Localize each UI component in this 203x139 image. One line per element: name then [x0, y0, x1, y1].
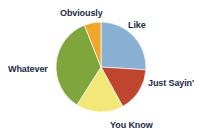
pie-label-like: Like — [128, 20, 146, 30]
pie-label-obviously: Obviously — [60, 8, 103, 18]
pie-label-just-sayin: Just Sayin' — [148, 78, 194, 88]
pie-label-you-know: You Know — [110, 120, 153, 130]
pie-label-whatever: Whatever — [8, 64, 48, 74]
pie-chart-figure: Obviously Like Just Sayin' You Know What… — [0, 0, 203, 139]
pie-slice-group — [56, 22, 146, 112]
